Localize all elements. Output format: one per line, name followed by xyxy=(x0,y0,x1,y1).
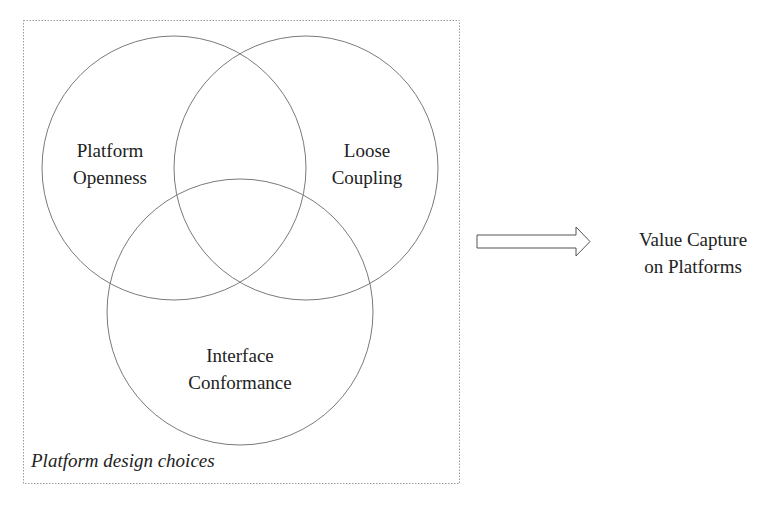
outcome-label: Value Capture on Platforms xyxy=(623,226,763,280)
label-line: Platform xyxy=(60,137,160,164)
label-line: Openness xyxy=(60,164,160,191)
label-line: Interface xyxy=(170,342,310,369)
label-line: Loose xyxy=(317,137,417,164)
circle-interface-conformance xyxy=(107,179,373,445)
group-box-caption: Platform design choices xyxy=(31,450,215,472)
label-loose-coupling: Loose Coupling xyxy=(317,137,417,191)
outcome-line: Value Capture xyxy=(623,226,763,253)
label-line: Coupling xyxy=(317,164,417,191)
label-interface-conformance: Interface Conformance xyxy=(170,342,310,396)
platform-design-choices-box xyxy=(24,21,460,484)
right-arrow-icon xyxy=(477,227,590,256)
outcome-line: on Platforms xyxy=(623,253,763,280)
label-line: Conformance xyxy=(170,369,310,396)
label-platform-openness: Platform Openness xyxy=(60,137,160,191)
